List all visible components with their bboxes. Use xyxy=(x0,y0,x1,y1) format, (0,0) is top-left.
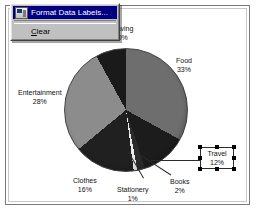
pie-slices[interactable] xyxy=(64,48,188,172)
menu-item-clear-label: Clear xyxy=(31,27,50,36)
data-label-food-percent: 33% xyxy=(176,66,192,75)
menu-item-format-data-labels[interactable]: Format Data Labels... xyxy=(13,6,117,19)
data-label-clothes-name: Clothes xyxy=(73,177,97,186)
data-label-travel-name: Travel xyxy=(201,149,233,158)
data-label-clothes-percent: 16% xyxy=(73,186,97,195)
data-label-entertainment-name: Entertainment xyxy=(18,89,62,98)
data-label-books-name: Books xyxy=(170,178,189,187)
menu-separator xyxy=(14,20,116,24)
data-label-food[interactable]: Food 33% xyxy=(176,57,192,74)
data-label-food-name: Food xyxy=(176,57,192,66)
data-label-books[interactable]: Books 2% xyxy=(170,178,189,195)
chart-canvas: Saving 0% 8% Food 33% Entertainment 28% … xyxy=(0,0,258,215)
selection-handle-w[interactable] xyxy=(198,156,202,160)
data-label-travel-selected[interactable]: Travel 12% xyxy=(200,147,234,169)
selection-handle-sw[interactable] xyxy=(198,167,202,171)
data-label-clothes[interactable]: Clothes 16% xyxy=(73,177,97,194)
selection-handle-ne[interactable] xyxy=(232,145,236,149)
pie-chart[interactable] xyxy=(64,48,188,172)
format-data-labels-icon xyxy=(15,7,28,19)
selection-handle-nw[interactable] xyxy=(198,145,202,149)
data-label-stationery-percent: 1% xyxy=(117,195,149,204)
selection-handle-e[interactable] xyxy=(232,156,236,160)
data-label-stationery[interactable]: Stationery 1% xyxy=(117,186,149,203)
leader-line-travel xyxy=(151,160,201,161)
selection-handle-n[interactable] xyxy=(215,145,219,149)
selection-handle-s[interactable] xyxy=(215,167,219,171)
data-label-books-percent: 2% xyxy=(170,187,189,196)
menu-item-clear[interactable]: Clear xyxy=(13,25,117,38)
data-label-entertainment[interactable]: Entertainment 28% xyxy=(18,89,62,106)
context-menu[interactable]: Format Data Labels... Clear xyxy=(10,3,120,41)
data-label-travel-percent: 12% xyxy=(201,158,233,167)
data-label-stationery-name: Stationery xyxy=(117,186,149,195)
data-label-entertainment-percent: 28% xyxy=(18,98,62,107)
selection-handle-se[interactable] xyxy=(232,167,236,171)
menu-item-format-data-labels-label: Format Data Labels... xyxy=(31,8,108,17)
